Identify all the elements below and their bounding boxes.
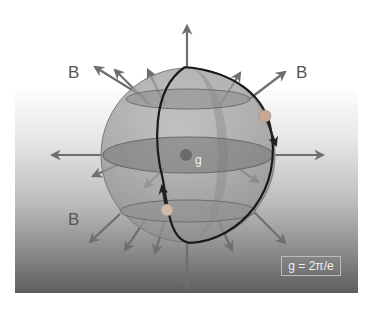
monopole-charge-label: g bbox=[195, 153, 202, 167]
b-field-label-top-left: B bbox=[68, 63, 79, 83]
b-field-label-bottom-left: B bbox=[68, 210, 79, 230]
charge-bead-lower bbox=[161, 204, 173, 216]
formula-box: g = 2π/e bbox=[281, 256, 341, 276]
b-field-label-top-right: B bbox=[296, 63, 307, 83]
lower-latitude-ring bbox=[120, 200, 256, 222]
monopole-center-dot bbox=[180, 149, 192, 161]
upper-latitude-ring bbox=[126, 89, 250, 109]
charge-bead-upper bbox=[259, 110, 271, 122]
formula-text: g = 2π/e bbox=[288, 259, 333, 273]
